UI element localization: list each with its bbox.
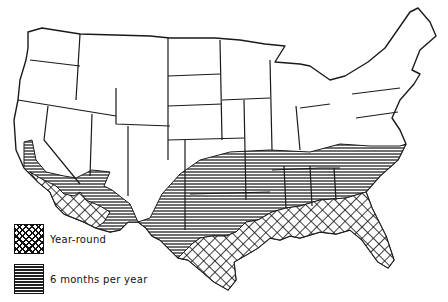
legend-item-6-months: 6 months per year <box>14 264 148 294</box>
horizontal-lines-swatch-icon <box>14 264 44 294</box>
legend-label-year-round: Year-round <box>50 234 106 245</box>
legend-label-6-months: 6 months per year <box>50 274 148 285</box>
legend-item-year-round: Year-round <box>14 224 106 254</box>
us-map <box>0 0 448 302</box>
crosshatch-swatch-icon <box>14 224 44 254</box>
